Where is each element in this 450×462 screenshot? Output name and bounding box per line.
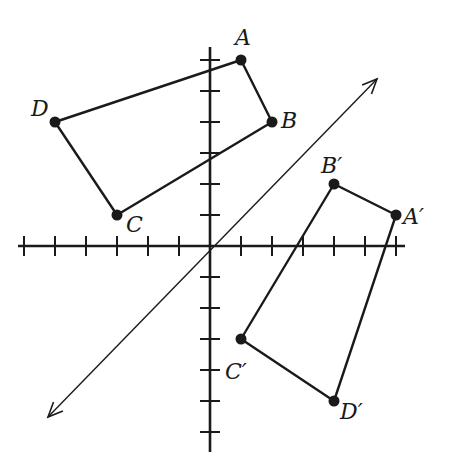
- quadrilateral-ABCD: [55, 60, 272, 215]
- vertex-point-B: [267, 117, 278, 128]
- reflection-line-y-equals-x: [48, 79, 377, 417]
- vertex-point-A: [236, 55, 247, 66]
- vertex-point-B-prime: [329, 179, 340, 190]
- label-D-prime: D′: [340, 401, 363, 423]
- vertex-point-D-prime: [329, 396, 340, 407]
- vertex-point-D: [50, 117, 61, 128]
- label-B-prime: B′: [321, 155, 342, 177]
- vertex-point-C: [112, 210, 123, 221]
- coordinate-plane-svg: [0, 0, 450, 462]
- label-D: D: [31, 98, 49, 120]
- label-A: A: [235, 27, 251, 49]
- label-C-prime: C′: [225, 361, 247, 383]
- label-B: B: [281, 110, 297, 132]
- label-C: C: [126, 214, 143, 236]
- reflection-line: [48, 79, 377, 417]
- quadrilateral-A-prime-B-prime-C-prime-D-prime: [241, 184, 396, 401]
- vertex-point-A-prime: [391, 210, 402, 221]
- vertex-point-C-prime: [236, 334, 247, 345]
- coordinate-plane-figure: A B C D A′ B′ C′ D′: [0, 0, 450, 462]
- label-A-prime: A′: [403, 206, 424, 228]
